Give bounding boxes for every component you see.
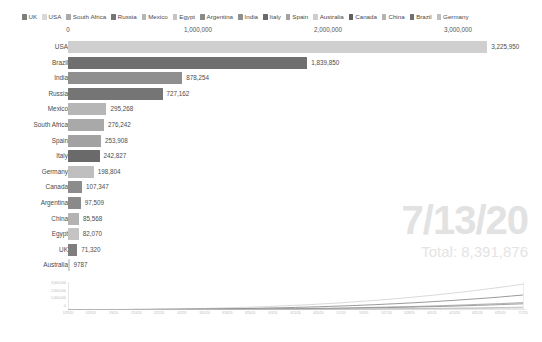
bar-row[interactable]: Canada107,347 — [0, 180, 542, 194]
bar-rect[interactable] — [68, 57, 307, 69]
bar-row[interactable]: UK71,320 — [0, 243, 542, 257]
bar-category-label: USA — [0, 40, 68, 54]
axis-tick-label: 1,000,000 — [184, 27, 212, 33]
legend-swatch-icon — [263, 14, 268, 20]
bar-row[interactable]: USA3,225,950 — [0, 40, 542, 54]
bar-row[interactable]: Russia727,162 — [0, 87, 542, 101]
axis-tick-label: 0 — [66, 27, 70, 33]
bar-rect[interactable] — [68, 135, 101, 147]
legend-item-label: Canada — [355, 14, 377, 20]
bar-value-label: 727,162 — [167, 87, 190, 101]
bar-value-label: 3,225,950 — [491, 40, 519, 54]
legend-item-label: Spain — [292, 14, 308, 20]
bar-value-label: 878,254 — [186, 71, 209, 85]
legend-item[interactable]: USA — [42, 14, 61, 20]
bar-rect[interactable] — [68, 181, 82, 193]
legend-item[interactable]: Germany — [437, 14, 469, 20]
bar-row[interactable]: Argentina97,509 — [0, 196, 542, 210]
bar-rect[interactable] — [68, 150, 100, 162]
legend-swatch-icon — [42, 14, 47, 20]
bar-rect[interactable] — [68, 259, 70, 271]
bar-row[interactable]: China85,568 — [0, 212, 542, 226]
inset-x-tick-label: 4/11/20 — [290, 312, 300, 315]
legend-item[interactable]: South Africa — [66, 14, 106, 20]
bar-row[interactable]: South Africa276,242 — [0, 118, 542, 132]
inset-x-tick-label: 2/22/20 — [154, 312, 165, 315]
inset-x-tick-label: 2/14/20 — [131, 312, 142, 315]
bar-value-label: 198,804 — [98, 165, 121, 179]
legend-item[interactable]: China — [382, 14, 405, 20]
legend-item[interactable]: Egypt — [173, 14, 195, 20]
bar-rect[interactable] — [68, 41, 487, 53]
bar-category-label: Egypt — [0, 227, 68, 241]
inset-x-tick-label: 2/6/20 — [109, 312, 118, 315]
bar-category-label: Australia — [0, 258, 68, 272]
legend-item-label: Egypt — [179, 14, 195, 20]
bar-rect[interactable] — [68, 119, 104, 131]
legend-item[interactable]: Brazil — [410, 14, 432, 20]
bar-row[interactable]: Egypt82,070 — [0, 227, 542, 241]
bar-rect[interactable] — [68, 197, 81, 209]
bar-rect[interactable] — [68, 213, 79, 225]
legend-item-label: Argentina — [207, 14, 234, 20]
bar-value-label: 71,320 — [81, 243, 100, 257]
legend-item[interactable]: Mexico — [142, 14, 168, 20]
bar-category-label: Russia — [0, 87, 68, 101]
legend-swatch-icon — [22, 14, 27, 20]
bar-value-label: 242,827 — [104, 149, 127, 163]
inset-y-tick-label: 1,000,000 — [40, 297, 66, 300]
legend-item-label: Germany — [443, 14, 468, 20]
legend-item-label: Russia — [118, 14, 137, 20]
inset-x-tick-label: 3/18/20 — [222, 312, 233, 315]
inset-x-tick-label: 6/25/20 — [472, 312, 483, 315]
legend-item[interactable]: India — [238, 14, 258, 20]
legend-item[interactable]: UK — [22, 14, 37, 20]
bar-value-label: 107,347 — [86, 180, 109, 194]
legend-item-label: China — [388, 14, 404, 20]
legend-swatch-icon — [382, 14, 387, 20]
legend-item-label: Brazil — [416, 14, 431, 20]
inset-plot-area — [68, 282, 528, 310]
legend-item-label: USA — [49, 14, 62, 20]
inset-x-tick-label: 3/10/20 — [199, 312, 210, 315]
legend-item[interactable]: Canada — [349, 14, 377, 20]
bar-value-label: 253,908 — [105, 134, 128, 148]
bar-row[interactable]: India878,254 — [0, 71, 542, 85]
legend-item-label: India — [245, 14, 258, 20]
bar-row[interactable]: Germany198,804 — [0, 165, 542, 179]
bar-rect[interactable] — [68, 228, 79, 240]
bar-rect[interactable] — [68, 88, 163, 100]
legend-item[interactable]: Russia — [111, 14, 136, 20]
inset-x-tick-label: 3/26/20 — [245, 312, 256, 315]
legend-swatch-icon — [173, 14, 178, 20]
bar-row[interactable]: Brazil1,839,850 — [0, 56, 542, 70]
bar-row[interactable]: Spain253,908 — [0, 134, 542, 148]
bar-rect[interactable] — [68, 72, 182, 84]
bar-rect[interactable] — [68, 166, 94, 178]
bar-category-label: India — [0, 71, 68, 85]
legend-item-label: Australia — [320, 14, 344, 20]
legend-swatch-icon — [286, 14, 291, 20]
inset-x-tick-label: 1/29/20 — [85, 312, 96, 315]
bar-row[interactable]: Mexico295,268 — [0, 102, 542, 116]
inset-x-tick-label: 4/3/20 — [268, 312, 277, 315]
legend-swatch-icon — [238, 14, 243, 20]
bar-rect[interactable] — [68, 244, 77, 256]
bar-row[interactable]: Italy242,827 — [0, 149, 542, 163]
inset-x-tick-label: 1/29/20 — [63, 312, 74, 315]
legend-item[interactable]: Australia — [313, 14, 344, 20]
legend-swatch-icon — [200, 14, 205, 20]
legend-item[interactable]: Spain — [286, 14, 308, 20]
bar-value-label: 82,070 — [83, 227, 102, 241]
bar-row[interactable]: Australia9787 — [0, 258, 542, 272]
inset-y-tick-label: 3,000,000 — [40, 282, 66, 285]
legend-item[interactable]: Italy — [263, 14, 281, 20]
legend-item-label: Mexico — [148, 14, 168, 20]
bar-rect[interactable] — [68, 103, 106, 115]
bar-category-label: Germany — [0, 165, 68, 179]
legend-item[interactable]: Argentina — [200, 14, 233, 20]
inset-x-tick-label: 5/17/20 — [381, 312, 392, 315]
bar-category-label: South Africa — [0, 118, 68, 132]
bar-category-label: Mexico — [0, 102, 68, 116]
inset-x-tick-label: 3/2/20 — [177, 312, 186, 315]
